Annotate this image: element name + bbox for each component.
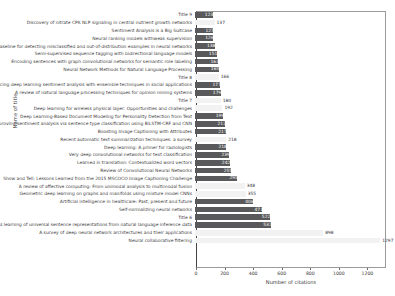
bar-track: 212 bbox=[195, 120, 386, 128]
bar-row: Geometric deep learning on graphs and ma… bbox=[0, 190, 386, 198]
bar-value-label: 126 bbox=[205, 35, 214, 41]
bar-row: A baseline for detecting misclassified a… bbox=[0, 42, 386, 50]
bar bbox=[195, 183, 245, 189]
bar-value-label: 180 bbox=[222, 98, 231, 104]
bar-category-label: Deep learning for wireless physical laye… bbox=[0, 106, 195, 111]
bar bbox=[195, 214, 270, 220]
bar-track: 192 bbox=[195, 104, 386, 112]
bar-category-label: Very deep convolutional networks for tex… bbox=[0, 152, 195, 157]
bar-row: Improving sentiment analysis via sentenc… bbox=[0, 120, 386, 128]
bar-track: 217 bbox=[195, 128, 386, 136]
bar-value-label: 179 bbox=[212, 90, 221, 96]
bar-track: 163 bbox=[195, 58, 386, 66]
x-tick-label: 600 bbox=[277, 271, 286, 276]
bar-category-label: Boosting Image Captioning with Attribute… bbox=[0, 129, 195, 134]
bar-row: Enhancing deep learning sentiment analys… bbox=[0, 81, 386, 89]
bar-row: Title 6522 bbox=[0, 213, 386, 221]
bar-value-label: 163 bbox=[210, 59, 219, 65]
bar-value-label: 406 bbox=[245, 199, 254, 205]
x-tick-label: 200 bbox=[220, 271, 229, 276]
bar-value-label: 218 bbox=[218, 144, 227, 150]
bar-value-label: 218 bbox=[227, 137, 236, 143]
bar-value-label: 295 bbox=[229, 175, 238, 181]
bar-value-label: 217 bbox=[218, 129, 227, 135]
bar-value-label: 471 bbox=[254, 207, 263, 213]
bar-track: 137 bbox=[195, 19, 386, 27]
bar-row: Title 8166 bbox=[0, 73, 386, 81]
bar-category-label: Artificial intelligence in healthcare: P… bbox=[0, 199, 195, 204]
x-axis: 020040060080010001200 Number of citation… bbox=[196, 268, 386, 296]
bar-row: Neural collaborative filtering1297 bbox=[0, 237, 386, 245]
x-tick-label: 800 bbox=[306, 271, 315, 276]
bar-row: Neural ranking models withweak supervisi… bbox=[0, 34, 386, 42]
bar-value-label: 151 bbox=[208, 51, 217, 57]
bar-row: Semi-supervised sequence tagging with bi… bbox=[0, 50, 386, 58]
bar-track: 151 bbox=[195, 50, 386, 58]
bar-value-label: 348 bbox=[246, 183, 255, 189]
bar-row: Self-normalizing neural networks471 bbox=[0, 206, 386, 214]
bar-category-label: A review of natural language processing … bbox=[0, 90, 195, 95]
bar-category-label: Discovery of nitrate CPK NLP signaling i… bbox=[0, 20, 195, 25]
bar-row: Title 7180 bbox=[0, 97, 386, 105]
bar-category-label: Deep Learning-Based Document Modeling fo… bbox=[0, 114, 195, 119]
x-tick-label: 0 bbox=[195, 271, 198, 276]
bar-row: Deep Learning-Based Document Modeling fo… bbox=[0, 112, 386, 120]
bar-track: 177 bbox=[195, 81, 386, 89]
bar-value-label: 177 bbox=[212, 82, 221, 88]
bar-category-label: Sentiment Analysis is a Big Suitcase bbox=[0, 28, 195, 33]
bar-category-label: Deep learning: A primer for radiologists bbox=[0, 145, 195, 150]
bar-category-label: Title 8 bbox=[0, 75, 195, 80]
bar-row: Supervised learning of universal sentenc… bbox=[0, 221, 386, 229]
bar-track: 255 bbox=[195, 167, 386, 175]
bar-track: 242 bbox=[195, 159, 386, 167]
bar-value-label: 355 bbox=[247, 191, 256, 197]
bar-value-label: 212 bbox=[217, 121, 226, 127]
citations-bar-chart: Name of title Title 9123Discovery of nit… bbox=[0, 0, 395, 296]
bar bbox=[195, 20, 215, 26]
bar-category-label: Show and Tell: Lessons Learned from the … bbox=[0, 176, 195, 181]
bar-track: 179 bbox=[195, 89, 386, 97]
bar-rows: Title 9123Discovery of nitrate CPK NLP s… bbox=[0, 11, 386, 268]
bar bbox=[195, 230, 323, 236]
bar-track: 127 bbox=[195, 27, 386, 35]
bar-track: 898 bbox=[195, 229, 386, 237]
bar-track: 348 bbox=[195, 182, 386, 190]
bar-category-label: Title 9 bbox=[0, 12, 195, 17]
x-tick-label: 1000 bbox=[333, 271, 345, 276]
bar bbox=[195, 98, 221, 104]
bar-track: 199 bbox=[195, 112, 386, 120]
bar-row: Show and Tell: Lessons Learned from the … bbox=[0, 174, 386, 182]
bar-track: 138 bbox=[195, 42, 386, 50]
bar-track: 166 bbox=[195, 73, 386, 81]
bar-track: 295 bbox=[195, 174, 386, 182]
bar-category-label: Semi-supervised sequence tagging with bi… bbox=[0, 51, 195, 56]
bar-value-label: 522 bbox=[261, 214, 270, 220]
bar-track: 123 bbox=[195, 11, 386, 19]
bar-row: Boosting Image Captioning with Attribute… bbox=[0, 128, 386, 136]
bar-row: A survey of deep neural network architec… bbox=[0, 229, 386, 237]
bar bbox=[195, 74, 219, 80]
bar-row: Neural Network Methods for Natural Langu… bbox=[0, 65, 386, 73]
bar-category-label: A review of affective computing: From un… bbox=[0, 184, 195, 189]
bar-track: 218 bbox=[195, 136, 386, 144]
bar-row: Artificial intelligence in healthcare: P… bbox=[0, 198, 386, 206]
bar-track: 180 bbox=[195, 97, 386, 105]
bar-row: Learned in translation: Contextualized w… bbox=[0, 159, 386, 167]
bar-value-label: 166 bbox=[220, 74, 229, 80]
bar-category-label: Learned in translation: Contextualized w… bbox=[0, 160, 195, 165]
bar bbox=[195, 105, 222, 111]
bar-row: Discovery of nitrate CPK NLP signaling i… bbox=[0, 19, 386, 27]
bar-row: Deep learning for wireless physical laye… bbox=[0, 104, 386, 112]
bar-value-label: 242 bbox=[221, 160, 230, 166]
bar-category-label: Encoding sentences with graph convolutio… bbox=[0, 59, 195, 64]
bar-value-label: 255 bbox=[223, 168, 232, 174]
bar-value-label: 1297 bbox=[381, 238, 393, 244]
bar-row: A review of affective computing: From un… bbox=[0, 182, 386, 190]
bar-category-label: Improving sentiment analysis via sentenc… bbox=[0, 121, 195, 126]
bar-value-label: 127 bbox=[205, 28, 214, 34]
bar-category-label: Self-normalizing neural networks bbox=[0, 207, 195, 212]
bar-value-label: 123 bbox=[204, 12, 213, 18]
bar-category-label: Title 7 bbox=[0, 98, 195, 103]
bar-category-label: A survey of deep neural network architec… bbox=[0, 230, 195, 235]
bar-category-label: Enhancing deep learning sentiment analys… bbox=[0, 82, 195, 87]
